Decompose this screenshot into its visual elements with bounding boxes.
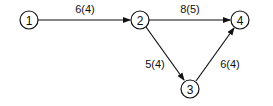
edge-3-4	[196, 28, 234, 81]
node-label-2: 2	[137, 14, 144, 28]
node-2: 2	[131, 11, 149, 29]
node-1: 1	[20, 11, 38, 29]
edge-label-2-4: 8(5)	[180, 3, 200, 15]
network-diagram: 6(4) 8(5) 5(4) 6(4) 1 2 3 4	[0, 0, 273, 106]
node-3: 3	[181, 80, 199, 98]
edge-label-3-4: 6(4)	[220, 58, 240, 70]
edge-label-1-2: 6(4)	[75, 3, 95, 15]
diagram-svg: 6(4) 8(5) 5(4) 6(4) 1 2 3 4	[0, 0, 273, 106]
node-4: 4	[231, 11, 249, 29]
edge-2-3	[146, 27, 184, 80]
edge-label-2-3: 5(4)	[145, 58, 165, 70]
node-label-4: 4	[237, 14, 244, 28]
node-label-1: 1	[26, 14, 33, 28]
node-label-3: 3	[187, 83, 194, 97]
